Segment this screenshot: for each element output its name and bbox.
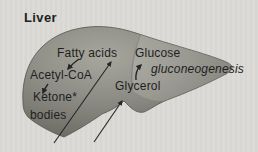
glycerol-label: Glycerol (115, 80, 161, 92)
gluconeogenesis-label: gluconeogenesis (151, 63, 244, 75)
ketone-bodies-label-line1: Ketone* (33, 91, 77, 103)
acetyl-coa-label: Acetyl-CoA (30, 69, 92, 81)
fatty-acids-label: Fatty acids (57, 47, 117, 59)
ketone-bodies-label-line2: bodies (30, 109, 67, 121)
glucose-label: Glucose (135, 47, 180, 59)
liver-title-label: Liver (24, 12, 57, 24)
liver-metabolism-figure: Liver Fatty acids Acetyl-CoA Ketone* bod… (0, 0, 258, 152)
